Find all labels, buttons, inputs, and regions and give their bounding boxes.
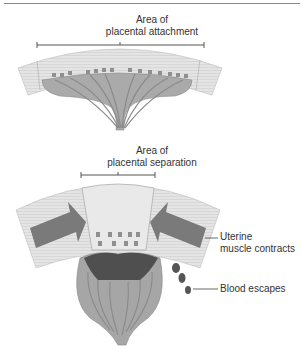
placenta-diagram (0, 0, 304, 349)
separation-bracket (81, 172, 155, 178)
placenta-attached (42, 68, 192, 130)
attachment-bracket (37, 42, 204, 48)
blood-drops (172, 263, 191, 294)
placenta-separated (77, 253, 163, 345)
